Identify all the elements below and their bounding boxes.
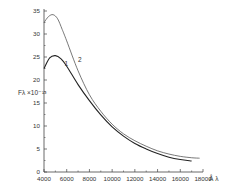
y-tick-label: 35	[33, 7, 40, 14]
axes: 4000600080001000012000140001600018000051…	[33, 7, 212, 182]
y-tick-label: 20	[33, 76, 40, 83]
spectrum-chart: 4000600080001000012000140001600018000051…	[0, 0, 236, 190]
curve-label-2: 2	[78, 56, 82, 63]
x-tick-label: 12000	[126, 175, 144, 182]
y-tick-label: 10	[33, 122, 40, 129]
x-tick-label: 10000	[104, 175, 122, 182]
labels: Fλ ×10⁻¹³Å λ12	[18, 56, 219, 182]
x-axis-label: Å λ	[209, 174, 219, 182]
curve-label-1: 1	[64, 60, 68, 67]
x-tick-label: 8000	[83, 175, 97, 182]
y-tick-label: 30	[33, 30, 40, 37]
curve-2	[44, 15, 200, 159]
y-tick-label: 25	[33, 53, 40, 60]
y-tick-label: 15	[33, 99, 40, 106]
curve-1	[44, 56, 192, 161]
x-tick-label: 16000	[172, 175, 190, 182]
x-tick-label: 4000	[37, 175, 51, 182]
curves	[44, 15, 200, 161]
y-axis-label: Fλ ×10⁻¹³	[18, 89, 47, 96]
x-tick-label: 6000	[60, 175, 74, 182]
x-tick-label: 14000	[149, 175, 167, 182]
y-tick-label: 5	[37, 145, 41, 152]
y-tick-label: 0	[37, 168, 41, 175]
